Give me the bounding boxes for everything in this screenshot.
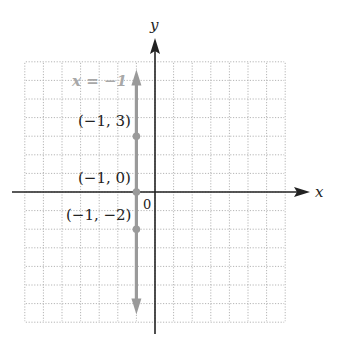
data-point [133, 132, 141, 140]
x-axis-label: x [315, 183, 324, 201]
y-axis-label: y [149, 16, 159, 34]
axes [12, 38, 310, 334]
point-label: (−1, 0) [78, 169, 131, 187]
coordinate-plane: yx0x = −1(−1, 3)(−1, 0)(−1, −2) [0, 0, 343, 349]
origin-label: 0 [143, 197, 151, 212]
point-label: (−1, 3) [78, 112, 131, 130]
arrow-up-icon [131, 70, 141, 86]
data-point [133, 225, 141, 233]
data-point [133, 188, 141, 196]
arrow-down-icon [131, 298, 141, 314]
equation-label: x = −1 [71, 72, 127, 90]
point-label: (−1, −2) [66, 206, 131, 224]
